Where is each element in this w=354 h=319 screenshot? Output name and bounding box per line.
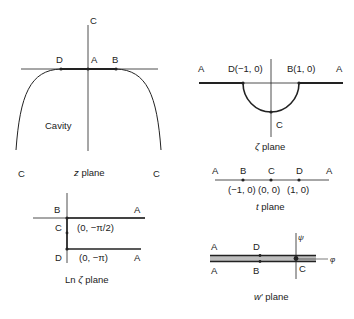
t-label-D: D (296, 165, 303, 176)
ln-point-B (65, 216, 68, 219)
w-prime-plane-caption: w′ plane (254, 291, 289, 302)
zeta-label-A-left: A (198, 63, 205, 74)
zeta-point-D (241, 81, 244, 84)
ln-zeta-plane-caption: Ln ζ plane (65, 274, 109, 285)
t-point-C (269, 178, 272, 181)
z-label-C-left: C (18, 168, 25, 179)
w-label-D: D (253, 241, 260, 252)
ln-label-A-bottom: A (134, 252, 141, 263)
zeta-label-B: B(1, 0) (287, 63, 316, 74)
w-slit-shading (210, 256, 316, 261)
z-plane-diagram: C D A B Cavity C C z plane (16, 15, 161, 179)
z-right-free-streamline (116, 69, 161, 150)
conformal-mapping-figure: C D A B Cavity C C z plane A D(−1, 0) B(… (0, 0, 354, 319)
t-point-D (297, 178, 300, 181)
t-plane-diagram: A B C D A (−1, 0) (0, 0) (1, 0) t plane (212, 165, 333, 212)
ln-label-A-top: A (134, 204, 141, 215)
zeta-point-B (297, 81, 300, 84)
ln-coord-D: (0, −π) (79, 252, 108, 263)
t-coord-D: (1, 0) (287, 184, 309, 195)
z-point-A (86, 67, 89, 70)
w-point-B (259, 260, 262, 263)
z-point-D (59, 67, 62, 70)
w-label-A-top: A (211, 241, 218, 252)
w-prime-plane-diagram: A D A B C ψ φ w′ plane (210, 233, 335, 302)
ln-label-C: C (55, 222, 62, 233)
zeta-plane-diagram: A D(−1, 0) B(1, 0) A C ζ plane (198, 59, 343, 152)
w-label-psi: ψ (298, 233, 304, 242)
ln-coord-C: (0, −π/2) (77, 222, 114, 233)
t-label-A-left: A (212, 165, 219, 176)
t-label-C: C (268, 165, 275, 176)
zeta-plane-caption: ζ plane (255, 141, 285, 152)
w-label-phi: φ (330, 255, 335, 264)
t-point-B (241, 178, 244, 181)
z-label-D: D (56, 54, 63, 65)
zeta-label-D: D(−1, 0) (228, 63, 263, 74)
ln-point-C (66, 232, 69, 235)
t-label-A-right: A (326, 165, 333, 176)
z-plane-caption: z plane (73, 167, 105, 178)
w-label-A-bottom: A (211, 265, 218, 276)
ln-point-D (65, 247, 68, 250)
z-label-cavity: Cavity (45, 120, 72, 131)
t-coord-B: (−1, 0) (228, 184, 256, 195)
w-label-B: B (253, 265, 259, 276)
z-left-free-streamline (16, 69, 61, 150)
ln-label-D: D (55, 252, 62, 263)
ln-zeta-plane-diagram: B A C (0, −π/2) D (0, −π) A Ln ζ plane (33, 193, 145, 285)
z-label-A: A (91, 54, 98, 65)
zeta-label-A-right: A (336, 63, 343, 74)
w-point-D (259, 254, 262, 257)
z-label-C-top: C (90, 15, 97, 26)
zeta-point-C (269, 110, 272, 113)
z-label-B: B (112, 54, 118, 65)
ln-label-B: B (54, 204, 60, 215)
t-plane-caption: t plane (256, 201, 285, 212)
t-coord-C: (0, 0) (258, 184, 280, 195)
zeta-label-C: C (276, 119, 283, 130)
z-point-B (114, 67, 117, 70)
z-label-C-right: C (153, 168, 160, 179)
w-label-C: C (299, 263, 306, 274)
t-label-B: B (240, 165, 246, 176)
w-point-C (294, 256, 299, 261)
